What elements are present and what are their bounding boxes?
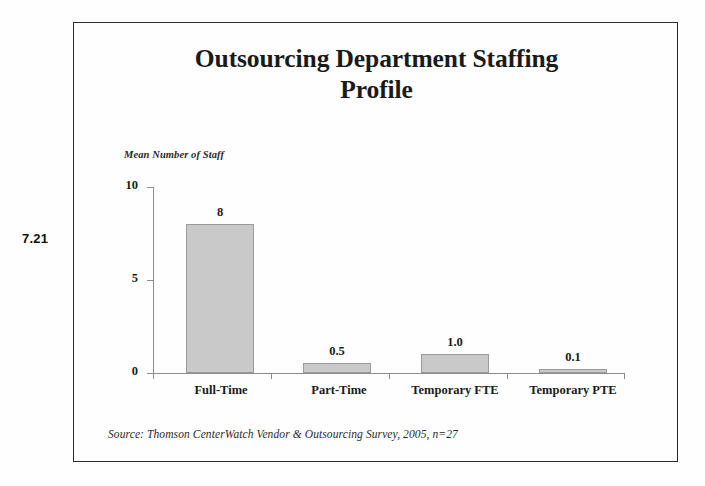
x-axis-tick-3: [507, 373, 508, 379]
bar-value-temporary-fte: 1.0: [421, 335, 489, 350]
bar-temporary-fte[interactable]: [421, 354, 489, 373]
y-axis-tick-10: 10: [147, 187, 153, 188]
y-axis-tick-label-0: 0: [132, 364, 138, 379]
chart-title-line-1: Outsourcing Department Staffing: [134, 43, 619, 74]
y-axis-tick-label-5: 5: [132, 271, 138, 286]
x-axis-label-temporary-fte: Temporary FTE: [396, 383, 514, 398]
chart-title: Outsourcing Department Staffing Profile: [134, 43, 619, 105]
figure-number: 7.21: [22, 231, 48, 246]
chart-title-line-2: Profile: [134, 74, 619, 105]
y-axis-tick-5: 5: [147, 280, 153, 281]
bar-full-time[interactable]: [186, 224, 254, 373]
x-axis-tick-4: [624, 373, 625, 379]
bar-value-part-time: 0.5: [303, 344, 371, 359]
x-axis-label-full-time: Full-Time: [162, 383, 280, 398]
bar-part-time[interactable]: [303, 363, 371, 373]
x-axis-label-temporary-pte: Temporary PTE: [514, 383, 632, 398]
bar-value-full-time: 8: [186, 205, 254, 220]
bar-value-temporary-pte: 0.1: [539, 350, 607, 365]
figure-page: 7.21 Outsourcing Department Staffing Pro…: [0, 0, 705, 486]
x-axis-tick-1: [271, 373, 272, 379]
y-axis-title: Mean Number of Staff: [124, 149, 224, 160]
source-note: Source: Thomson CenterWatch Vendor & Out…: [108, 428, 458, 440]
x-axis-label-part-time: Part-Time: [280, 383, 398, 398]
x-axis-tick-0: [153, 373, 154, 379]
y-axis-line: [153, 187, 154, 373]
plot-area: 10 5 0 8 0.5 1.0 0.1 Full-Tim: [153, 187, 625, 373]
figure-frame: Outsourcing Department Staffing Profile …: [73, 22, 678, 462]
x-axis-tick-2: [389, 373, 390, 379]
y-axis-tick-label-10: 10: [126, 178, 139, 193]
bar-temporary-pte[interactable]: [539, 369, 607, 373]
